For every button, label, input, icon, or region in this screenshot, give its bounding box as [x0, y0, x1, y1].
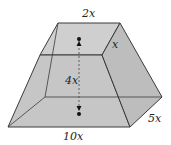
height-top-point — [77, 37, 81, 41]
top-width-text: 2x — [82, 7, 95, 20]
height-text: 4x — [65, 74, 78, 87]
label-top-depth: x — [112, 39, 118, 50]
bottom-width-text: 10x — [63, 130, 83, 143]
label-bottom-width: 10x — [63, 131, 83, 142]
height-bottom-point — [77, 112, 81, 116]
label-height: 4x — [65, 75, 78, 86]
top-depth-text: x — [112, 38, 118, 51]
label-bottom-depth: 5x — [148, 113, 161, 124]
label-top-width: 2x — [82, 8, 95, 19]
frustum-drawing — [0, 0, 171, 145]
bottom-depth-text: 5x — [148, 112, 161, 125]
frustum-figure: 2x x 4x 10x 5x — [0, 0, 171, 145]
